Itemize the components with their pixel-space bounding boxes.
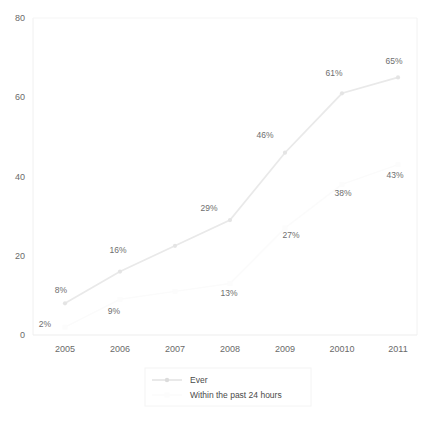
y-tick-label-40: 40: [15, 172, 25, 182]
y-tick-label-80: 80: [15, 13, 25, 23]
data-label-past24-2008: 13%: [220, 288, 237, 298]
data-label-past24-2011: 43%: [386, 170, 403, 180]
chart-container: 80 60 40 20 0 2005 2006 2007 2008 2009 2…: [0, 0, 434, 427]
y-tick-label-60: 60: [15, 92, 25, 102]
data-label-past24-20010: 38%: [334, 188, 351, 198]
x-tick-label-2008: 2008: [220, 344, 240, 354]
data-label-past24-2009: 27%: [282, 230, 299, 240]
x-tick-label-2011: 2011: [388, 344, 407, 354]
data-label-ever-20010: 61%: [325, 68, 342, 78]
y-tick-label-0: 0: [20, 330, 25, 340]
legend-box: [145, 368, 311, 406]
legend: Ever Within the past 24 hours: [145, 368, 311, 406]
line-chart: 80 60 40 20 0 2005 2006 2007 2008 2009 2…: [0, 0, 434, 427]
y-tick-label-20: 20: [15, 251, 25, 261]
x-tick-label-20010: 20010: [329, 344, 354, 354]
x-tick-label-2006: 2006: [110, 344, 130, 354]
x-tick-label-2009: 2009: [275, 344, 295, 354]
data-label-ever-2011: 65%: [385, 56, 402, 66]
data-label-past24-2006: 9%: [108, 306, 121, 316]
legend-label-within-past-24-hours: Within the past 24 hours: [190, 390, 282, 400]
x-tick-label-2007: 2007: [165, 344, 185, 354]
legend-swatch-ever-marker: [165, 378, 169, 382]
data-label-ever-2005: 8%: [55, 285, 68, 295]
legend-swatch-past24-marker: [165, 393, 170, 398]
data-label-ever-2006: 16%: [109, 245, 126, 255]
data-label-ever-2008: 29%: [200, 203, 217, 213]
data-label-ever-2009: 46%: [256, 130, 273, 140]
data-label-past24-2005: 2%: [39, 319, 52, 329]
legend-label-ever: Ever: [190, 375, 208, 385]
x-tick-label-2005: 2005: [55, 344, 75, 354]
